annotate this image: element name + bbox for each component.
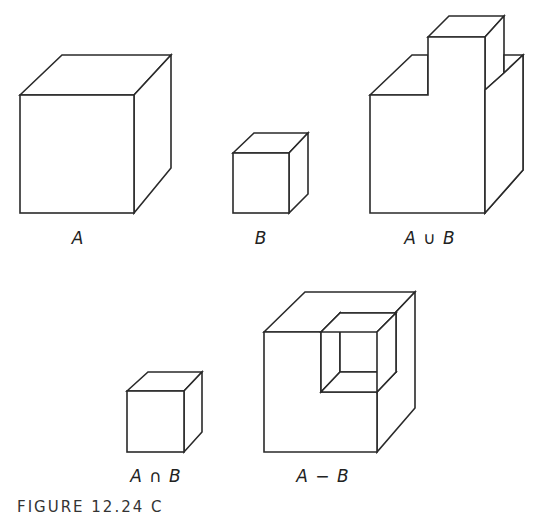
cube-a — [20, 55, 171, 213]
label-difference: A − B — [296, 466, 349, 486]
label-a: A — [72, 228, 85, 248]
label-intersection: A ∩ B — [130, 466, 182, 486]
label-b: B — [255, 228, 268, 248]
cube-b — [233, 133, 308, 213]
label-union: A ∪ B — [404, 228, 456, 248]
cube-difference — [264, 292, 415, 452]
figure-caption: FIGURE 12.24 C — [17, 498, 164, 516]
cube-union — [370, 16, 523, 213]
cube-intersection — [127, 372, 202, 452]
